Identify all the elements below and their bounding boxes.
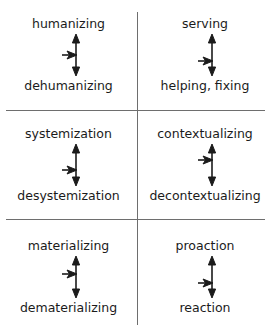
pole-label-top: contextualizing xyxy=(157,127,253,141)
double-headed-vertical-arrow xyxy=(46,33,92,77)
polarity-grid-diagram: humanizing dehumanizing serving xyxy=(0,0,273,335)
pole-label-bottom: desystemization xyxy=(17,189,119,203)
pole-label-top: systemization xyxy=(25,127,112,141)
pole-label-bottom: reaction xyxy=(179,301,230,315)
quadrant-contextualizing-decontextualizing: contextualizing decontextualizing xyxy=(137,110,273,219)
quadrant-humanizing-dehumanizing: humanizing dehumanizing xyxy=(0,0,137,110)
double-headed-vertical-arrow xyxy=(46,255,92,299)
pole-label-bottom: dematerializing xyxy=(20,301,117,315)
pole-label-top: serving xyxy=(182,17,228,31)
double-headed-vertical-arrow xyxy=(182,143,228,187)
pole-label-top: proaction xyxy=(176,239,235,253)
pole-label-bottom: decontextualizing xyxy=(149,189,260,203)
quadrant-materializing-dematerializing: materializing dematerializing xyxy=(0,219,137,335)
double-headed-vertical-arrow xyxy=(182,33,228,77)
quadrant-systemization-desystemization: systemization desystemization xyxy=(0,110,137,219)
quadrant-proaction-reaction: proaction reaction xyxy=(137,219,273,335)
pole-label-top: humanizing xyxy=(32,17,105,31)
pole-label-bottom: dehumanizing xyxy=(24,79,113,93)
quadrant-serving-helping-fixing: serving helping, fixing xyxy=(137,0,273,110)
pole-label-top: materializing xyxy=(28,239,110,253)
double-headed-vertical-arrow xyxy=(46,143,92,187)
double-headed-vertical-arrow xyxy=(182,255,228,299)
pole-label-bottom: helping, fixing xyxy=(161,79,250,93)
